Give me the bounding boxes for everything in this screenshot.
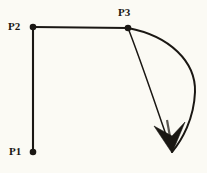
path-diagram-svg: [0, 0, 207, 173]
diagram-canvas: P1 P2 P3: [0, 0, 207, 173]
inner-curve-p3-to-arrow: [128, 28, 171, 149]
vertex-label-p2: P2: [8, 21, 20, 32]
vertex-dot-p1: [30, 149, 37, 156]
segment-p2-p3: [33, 27, 128, 28]
vertex-label-p3: P3: [118, 7, 130, 18]
vertex-dot-p3: [125, 25, 132, 32]
vertex-label-p1: P1: [9, 146, 21, 157]
arrowhead-icon: [154, 122, 185, 153]
vertex-dot-p2: [30, 24, 37, 31]
